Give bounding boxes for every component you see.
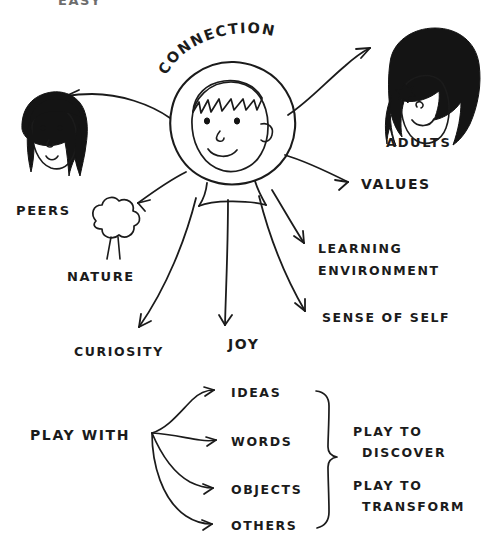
peers-eye-left <box>41 125 46 131</box>
peers-label: PEERS <box>16 203 71 218</box>
sketch-canvas: EASY <box>0 0 493 557</box>
arrow-to-adults <box>288 48 370 115</box>
adults-label: ADULTS <box>386 135 451 150</box>
arrow-to-nature <box>138 172 186 211</box>
play-fan-arrow-ideas <box>152 387 214 433</box>
center-hair-spikes <box>193 99 262 113</box>
arrow-to-learning-environment <box>272 190 304 243</box>
nature-tree-illustration <box>93 198 140 259</box>
peers-eye-right <box>58 125 63 131</box>
center-smile <box>208 149 237 156</box>
learning-label-line1: LEARNING <box>318 241 402 256</box>
nature-label: NATURE <box>67 269 135 284</box>
play-item-others: OTHERS <box>231 518 297 533</box>
play-with-label: PLAY WITH <box>30 427 130 443</box>
center-eye-right <box>234 118 239 124</box>
center-nose <box>216 131 224 141</box>
arrow-to-curiosity <box>139 198 196 327</box>
play-item-words: WORDS <box>231 434 292 449</box>
play-outcome-2-line2: TRANSFORM <box>362 499 465 514</box>
play-outcomes-brace <box>316 391 337 528</box>
center-figure-group <box>170 62 295 206</box>
center-face-oval <box>192 82 268 172</box>
play-outcome-2-line1: PLAY TO <box>353 478 422 493</box>
joy-label: JOY <box>227 336 260 352</box>
center-body-bottom <box>199 201 266 206</box>
arrow-to-values <box>285 155 348 190</box>
arrow-to-joy <box>219 200 232 325</box>
learning-label-line2: ENVIRONMENT <box>318 263 440 278</box>
curiosity-label: CURIOSITY <box>74 344 164 359</box>
arrow-to-sense-of-self <box>259 196 305 311</box>
play-fan-arrow-others <box>152 433 212 530</box>
adults-figure-group <box>385 28 480 146</box>
connection-arc-label: CONNECTION <box>155 20 324 83</box>
sense-of-self-label: SENSE OF SELF <box>322 310 450 325</box>
play-outcome-1-line2: DISCOVER <box>362 445 446 460</box>
cropped-top-label: EASY <box>58 0 102 8</box>
peers-figure-group <box>22 92 87 176</box>
hand-drawn-mindmap: EASY <box>0 0 493 557</box>
center-eye-left <box>204 118 209 124</box>
play-outcome-1-line1: PLAY TO <box>353 424 422 439</box>
play-fan-arrow-words <box>152 433 216 446</box>
play-item-ideas: IDEAS <box>231 385 281 400</box>
values-label: VALUES <box>361 176 431 192</box>
center-body-left <box>199 183 207 206</box>
play-item-objects: OBJECTS <box>231 482 302 497</box>
